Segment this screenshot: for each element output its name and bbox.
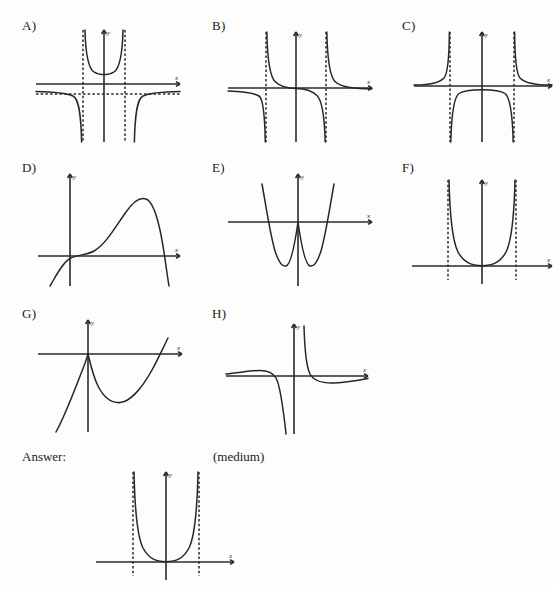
option-panel-f[interactable]: F) x y <box>380 146 553 294</box>
axis-label-x-a: x <box>174 74 179 82</box>
answer-label: Answer: <box>22 449 66 465</box>
axis-label-y-f: y <box>484 179 489 187</box>
axis-label-y-a: y <box>106 29 111 37</box>
graph-c: x y <box>408 22 553 147</box>
option-panel-d[interactable]: D) x y <box>0 146 190 294</box>
axis-label-x-d: x <box>174 246 179 254</box>
axis-label-x-g: x <box>176 344 181 352</box>
axis-label-y-h: y <box>296 323 301 331</box>
axis-label-x-c: x <box>546 76 551 84</box>
graph-f: x y <box>406 166 553 290</box>
graph-g: x y <box>30 310 190 436</box>
axis-label-x-h: x <box>362 366 367 374</box>
option-panel-g[interactable]: G) x y <box>0 292 190 440</box>
axis-label-x-f: x <box>546 256 551 264</box>
axis-label-y-c: y <box>484 31 489 39</box>
option-panel-h[interactable]: H) x y <box>190 292 380 440</box>
graph-e: x y <box>220 164 380 290</box>
graph-d: x y <box>30 164 190 290</box>
graph-h: x y <box>218 314 378 438</box>
axis-label-y-g: y <box>90 319 95 327</box>
axis-label-y-d: y <box>72 173 77 181</box>
option-panel-b[interactable]: B) x y <box>190 0 380 150</box>
graph-answer: x y <box>78 456 238 582</box>
worksheet-page: A) x y <box>0 0 553 589</box>
graph-b: x y <box>220 22 380 147</box>
option-panel-e[interactable]: E) x y <box>190 146 380 294</box>
axis-label-y-e: y <box>300 173 305 181</box>
option-panel-a[interactable]: A) x y <box>0 0 190 150</box>
axis-label-y-answer: y <box>168 471 173 479</box>
option-panel-c[interactable]: C) x y <box>380 0 553 150</box>
axis-label-x-b: x <box>366 78 371 86</box>
axis-label-x-e: x <box>366 212 371 220</box>
graph-a: x y <box>28 22 188 147</box>
axis-label-x-answer: x <box>228 552 233 560</box>
axis-label-y-b: y <box>298 31 303 39</box>
